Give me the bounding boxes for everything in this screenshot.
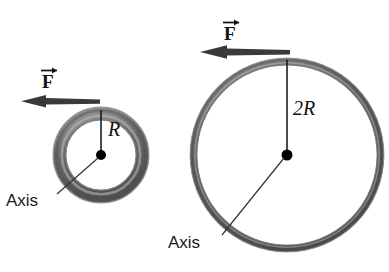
ring-small-axis-label: Axis	[6, 191, 38, 210]
ring-large-force-vector-arrowhead-icon	[234, 20, 239, 26]
ring-large-axis-label: Axis	[168, 233, 200, 252]
diagram-canvas: F R Axis F 2R Axis	[0, 0, 389, 272]
ring-large-axis-leader	[222, 158, 284, 235]
ring-large-force-arrow	[200, 45, 290, 59]
ring-large-force-label: F	[224, 23, 236, 44]
ring-small-force-arrow	[21, 95, 100, 108]
ring-small-group	[21, 95, 149, 203]
ring-large-radius-label: 2R	[293, 97, 315, 119]
ring-large-group	[190, 45, 384, 252]
ring-small-force-label: F	[42, 71, 54, 92]
physics-diagram: F R Axis F 2R Axis	[0, 0, 389, 272]
ring-small-force-vector-arrowhead-icon	[52, 68, 57, 74]
ring-small-radius-label: R	[107, 118, 120, 140]
